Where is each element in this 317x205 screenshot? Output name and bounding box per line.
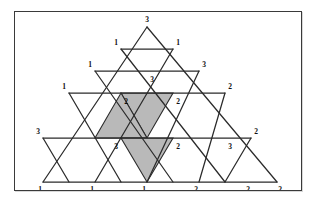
vertex-label-r4-c3: 3 — [228, 142, 232, 151]
vertex-label-r5-c4: 2 — [246, 185, 250, 190]
edge-left-2 — [147, 71, 199, 182]
vertex-label-r2-c2: 3 — [202, 60, 206, 69]
edge-left-1 — [95, 49, 173, 182]
vertex-label-r5-c5: 2 — [278, 185, 282, 190]
vertex-label-r3-c1: 2 — [124, 97, 128, 106]
vertex-label-r5-c2: 1 — [142, 185, 146, 190]
vertex-label-r2-c0: 1 — [88, 60, 92, 69]
vertex-label-r5-c3: 2 — [194, 185, 198, 190]
vertex-label-r4-c2: 2 — [176, 142, 180, 151]
vertex-label-r1-c0: 1 — [114, 38, 118, 47]
vertex-label-r5-c1: 1 — [90, 185, 94, 190]
vertex-label-r5-c0: 1 — [38, 185, 42, 190]
vertex-label-r3-c0: 1 — [62, 82, 66, 91]
vertex-label-r2-c1: 3 — [150, 75, 154, 84]
vertex-label-r1-c1: 1 — [176, 38, 180, 47]
triangulation-diagram: 3 1 1 1 3 3 1 2 2 2 3 3 2 3 2 1 1 1 2 2 — [15, 12, 301, 190]
vertex-label-r4-c0: 3 — [36, 127, 40, 136]
figure-frame: 3 1 1 1 3 3 1 2 2 2 3 3 2 3 2 1 1 1 2 2 — [14, 11, 302, 191]
vertex-label-r3-c3: 2 — [228, 82, 232, 91]
vertex-label-r4-c4: 2 — [254, 127, 258, 136]
vertex-label-r3-c2: 2 — [176, 97, 180, 106]
vertex-label-r0-c0: 3 — [145, 15, 149, 24]
figure-root: 3 1 1 1 3 3 1 2 2 2 3 3 2 3 2 1 1 1 2 2 — [0, 0, 317, 205]
vertex-label-r4-c1: 3 — [114, 142, 118, 151]
